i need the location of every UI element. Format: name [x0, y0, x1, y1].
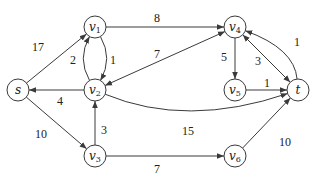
node-v5-label: v5: [229, 83, 241, 98]
edge-weight-v1-v2: 1: [110, 53, 116, 68]
edge-weight-v4-t: 3: [255, 54, 261, 69]
edges-layer: [0, 0, 327, 183]
node-label-subscript: 3: [96, 155, 101, 164]
node-label-base: v: [89, 20, 96, 34]
node-label-base: v: [89, 83, 96, 97]
node-label-base: v: [229, 149, 236, 163]
edge-v2-t: [105, 94, 287, 111]
edge-weight-t-v4: 1: [294, 35, 300, 50]
edge-weight-v2-v1: 2: [70, 53, 76, 68]
edge-weight-v6-t: 10: [279, 135, 291, 150]
node-v6-label: v6: [229, 149, 241, 164]
node-label-base: v: [229, 20, 236, 34]
edge-weight-v2-t: 15: [182, 124, 194, 139]
node-label-base: v: [89, 149, 96, 163]
edge-weight-v2-s: 4: [57, 94, 63, 109]
node-label-subscript: 1: [96, 26, 101, 35]
node-v3-label: v3: [89, 149, 101, 164]
node-label-subscript: 5: [236, 89, 241, 98]
node-label-subscript: 4: [236, 26, 241, 35]
edge-weight-v4-v5: 5: [221, 50, 227, 65]
edge-weight-s-v3: 10: [35, 127, 47, 142]
node-label-base: s: [15, 83, 21, 97]
edge-weight-v5-t: 1: [264, 76, 270, 91]
edge-weight-v3-v2: 3: [101, 123, 107, 138]
node-v2-label: v2: [89, 83, 101, 98]
node-v4-label: v4: [229, 20, 241, 35]
edge-weight-s-v1: 17: [32, 40, 44, 55]
node-v1-label: v1: [89, 20, 101, 35]
edge-weight-v3-v6: 7: [154, 162, 160, 177]
edge-weight-v4-v2: 7: [154, 47, 160, 62]
node-label-subscript: 6: [236, 155, 241, 164]
node-t-label: t: [296, 83, 301, 97]
edge-v1-v2: [100, 37, 106, 81]
node-s-label: s: [15, 83, 21, 97]
edge-t-v4: [245, 31, 297, 79]
node-label-subscript: 2: [96, 89, 101, 98]
node-label-base: t: [296, 83, 301, 97]
edge-weight-v1-v4: 8: [154, 11, 160, 26]
edge-v2-v1: [83, 37, 89, 81]
graph-diagram: 1710421873157531110sv1v2v3v4v5v6t: [0, 0, 327, 183]
node-label-base: v: [229, 83, 236, 97]
edge-v4-v2: [105, 32, 225, 86]
